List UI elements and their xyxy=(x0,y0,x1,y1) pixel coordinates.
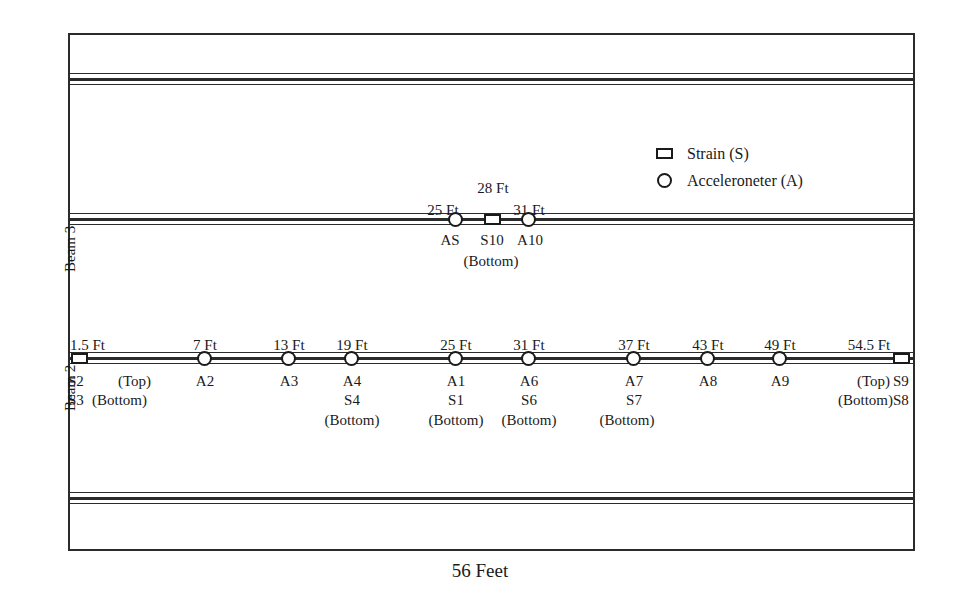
sensor-marker-AS[interactable] xyxy=(448,212,463,227)
sensor-marker-S9-S8[interactable] xyxy=(893,353,910,364)
square-icon xyxy=(650,148,678,159)
beam-line-bottom xyxy=(68,492,915,505)
position-note-bottom-S8: (Bottom) xyxy=(838,392,893,409)
sensor-code-AS: AS xyxy=(440,232,459,249)
sensor-code-A8: A8 xyxy=(699,373,717,390)
sensor-code-A6: A6 xyxy=(520,373,538,390)
position-note-bottom-beam3: (Bottom) xyxy=(464,253,519,270)
legend: Strain (S) Acceleroneter (A) xyxy=(650,140,803,194)
sensor-layout-diagram: Beam 3 25 Ft 28 Ft 31 Ft AS S10 A10 (Bot… xyxy=(0,0,960,599)
sensor-code-A2: A2 xyxy=(196,373,214,390)
sensor-code-A3: A3 xyxy=(280,373,298,390)
sensor-code-S6: S6 xyxy=(521,392,537,409)
sensor-code-S10: S10 xyxy=(480,232,503,249)
sensor-marker-A4[interactable] xyxy=(344,351,359,366)
diagram-frame xyxy=(68,33,915,551)
sensor-code-S2: S2 xyxy=(68,373,84,390)
sensor-marker-A7[interactable] xyxy=(626,351,641,366)
sensor-code-S1: S1 xyxy=(448,392,464,409)
beam-thin-line-lower xyxy=(68,503,915,504)
sensor-marker-A6[interactable] xyxy=(521,351,536,366)
position-note-bottom-S6: (Bottom) xyxy=(502,412,557,429)
sensor-marker-S10[interactable] xyxy=(484,214,501,225)
legend-label-strain: Strain (S) xyxy=(687,145,749,163)
beam3-name-label: Beam 3 xyxy=(62,226,79,272)
sensor-marker-A8[interactable] xyxy=(700,351,715,366)
circle-icon xyxy=(650,173,678,188)
beam-thick-line xyxy=(68,78,915,81)
position-note-top-S2: (Top) xyxy=(118,373,151,390)
sensor-code-A1: A1 xyxy=(447,373,465,390)
legend-item-strain: Strain (S) xyxy=(650,140,803,167)
sensor-marker-S2-S3[interactable] xyxy=(71,353,88,364)
beam-thin-line-upper xyxy=(68,73,915,74)
beam-thick-line xyxy=(68,497,915,500)
position-note-bottom-S7: (Bottom) xyxy=(600,412,655,429)
sensor-marker-A2[interactable] xyxy=(197,351,212,366)
position-note-bottom-S3: (Bottom) xyxy=(92,392,147,409)
distance-label-54-5ft: 54.5 Ft xyxy=(848,337,891,354)
sensor-code-S7: S7 xyxy=(626,392,642,409)
sensor-code-S8: S8 xyxy=(893,392,909,409)
sensor-code-S4: S4 xyxy=(344,392,360,409)
sensor-code-S9: S9 xyxy=(893,373,909,390)
sensor-code-A10: A10 xyxy=(517,232,543,249)
sensor-code-S3: S3 xyxy=(68,392,84,409)
distance-label-1-5ft: 1.5 Ft xyxy=(70,337,105,354)
position-note-bottom-S1: (Bottom) xyxy=(429,412,484,429)
beam-thin-line-lower xyxy=(68,363,915,364)
beam-thin-line-lower xyxy=(68,84,915,85)
sensor-marker-A1[interactable] xyxy=(448,351,463,366)
sensor-marker-A9[interactable] xyxy=(772,351,787,366)
legend-item-accelerometer: Acceleroneter (A) xyxy=(650,167,803,194)
sensor-marker-A3[interactable] xyxy=(281,351,296,366)
position-note-top-S9: (Top) xyxy=(857,373,890,390)
sensor-code-A9: A9 xyxy=(771,373,789,390)
beam-thick-line xyxy=(68,357,915,360)
legend-label-accelerometer: Acceleroneter (A) xyxy=(687,172,803,190)
beam-thin-line-upper xyxy=(68,492,915,493)
position-note-bottom-S4: (Bottom) xyxy=(325,412,380,429)
sensor-marker-A10[interactable] xyxy=(521,212,536,227)
sensor-code-A4: A4 xyxy=(343,373,361,390)
distance-label-28ft-beam3: 28 Ft xyxy=(477,180,508,197)
span-caption: 56 Feet xyxy=(0,560,960,582)
sensor-code-A7: A7 xyxy=(625,373,643,390)
beam-line-top xyxy=(68,73,915,86)
